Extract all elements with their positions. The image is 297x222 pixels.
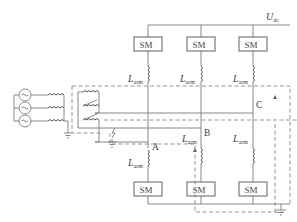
- upper-submodules: SM SM SM: [134, 37, 267, 51]
- transformer-primary: [48, 94, 68, 134]
- dc-voltage-label: Udc: [266, 11, 279, 23]
- lower-inductor-label-c: Larm: [232, 133, 248, 145]
- upper-inductor-label-c: Larm: [232, 73, 248, 85]
- svg-text:SM: SM: [193, 185, 206, 195]
- upper-inductor-label-a: Larm: [127, 73, 143, 85]
- upper-inductor-label-b: Larm: [179, 73, 195, 85]
- svg-text:SM: SM: [140, 185, 153, 195]
- node-label-a: A: [152, 142, 159, 152]
- dc-negative-bus: [148, 196, 290, 204]
- lower-arm-inductors: [148, 148, 255, 166]
- arrow-up-icon: [193, 148, 197, 152]
- phase-connections: [95, 113, 253, 142]
- node-label-b: B: [204, 128, 210, 138]
- inductor-icon: [148, 66, 150, 82]
- ground-icon: [276, 204, 286, 215]
- node-label-c: C: [256, 100, 262, 110]
- lower-inductor-label-b: Larm: [181, 133, 197, 145]
- inductor-icon: [148, 150, 150, 166]
- inductor-icon: [253, 148, 255, 164]
- transformer-secondary: [78, 91, 99, 143]
- lower-inductor-label-a: Larm: [127, 157, 143, 169]
- inductor-icon: [201, 66, 203, 82]
- ground-icon: [64, 133, 72, 138]
- inductor-icon: [201, 148, 203, 164]
- svg-text:SM: SM: [193, 40, 206, 50]
- svg-text:SM: SM: [140, 40, 153, 50]
- mmc-circuit-diagram: Udc SM SM SM Larm Larm Larm C B A Larm L…: [0, 0, 297, 222]
- dc-positive-bus: [148, 25, 290, 37]
- inductor-icon: [253, 66, 255, 82]
- arrow-up-icon: [273, 95, 277, 99]
- ac-sources: [14, 89, 48, 127]
- lower-submodules: SM SM SM: [134, 182, 267, 196]
- svg-text:SM: SM: [245, 185, 258, 195]
- svg-text:SM: SM: [245, 40, 258, 50]
